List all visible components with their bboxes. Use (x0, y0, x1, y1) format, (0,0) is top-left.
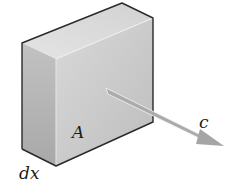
area-label: A (70, 122, 84, 142)
slab-side-face (22, 43, 56, 166)
velocity-label: c (199, 112, 209, 132)
thickness-label: dx (19, 163, 40, 183)
slab-diagram: A c dx (0, 0, 230, 188)
